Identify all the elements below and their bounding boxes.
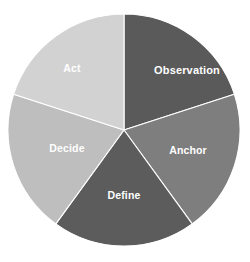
pie-label-observation: Observation bbox=[154, 64, 220, 76]
pie-label-decide: Decide bbox=[49, 142, 84, 154]
pie-chart: Observation Anchor Define Decide Act bbox=[0, 0, 250, 262]
pie-slices-group bbox=[8, 14, 240, 246]
pie-label-anchor: Anchor bbox=[169, 144, 207, 156]
pie-label-define: Define bbox=[108, 189, 141, 201]
pie-chart-container: Observation Anchor Define Decide Act bbox=[0, 0, 250, 262]
pie-label-act: Act bbox=[63, 62, 81, 74]
